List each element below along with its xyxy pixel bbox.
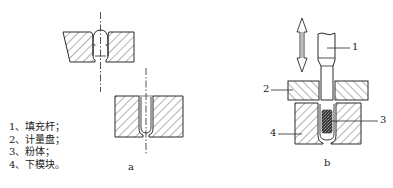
figure-a-metering-disk — [63, 12, 134, 92]
callout-2: 2 — [263, 83, 269, 94]
legend-item: 2、计量盘； — [9, 134, 65, 147]
figure-a-lower-die — [115, 68, 183, 155]
caption-b: b — [324, 157, 330, 168]
caption-a: a — [128, 161, 134, 172]
legend-item: 1、填充杆； — [9, 121, 65, 134]
callout-3: 3 — [380, 114, 386, 125]
legend-item: 3、粉体； — [9, 146, 65, 159]
callout-1: 1 — [352, 41, 358, 52]
legend-item: 4、下模块。 — [9, 159, 65, 172]
double-arrow-icon — [297, 18, 307, 72]
figure-b-assembly — [271, 18, 378, 144]
powder-fill — [322, 110, 332, 133]
callout-4: 4 — [270, 127, 276, 138]
legend: 1、填充杆； 2、计量盘； 3、粉体； 4、下模块。 — [9, 121, 65, 171]
filling-rod — [318, 33, 335, 100]
